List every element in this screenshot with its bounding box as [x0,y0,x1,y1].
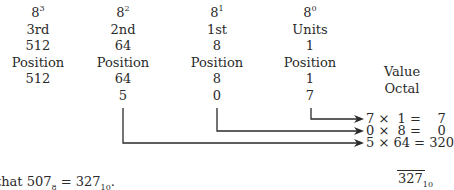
arrow-second [123,108,358,143]
arrow-units [311,108,358,119]
conclusion-text: that 5078 = 32710. [0,175,115,189]
sum-total: 32710 [398,172,433,186]
equation-second: 5 × 64 = 320 [366,135,454,151]
